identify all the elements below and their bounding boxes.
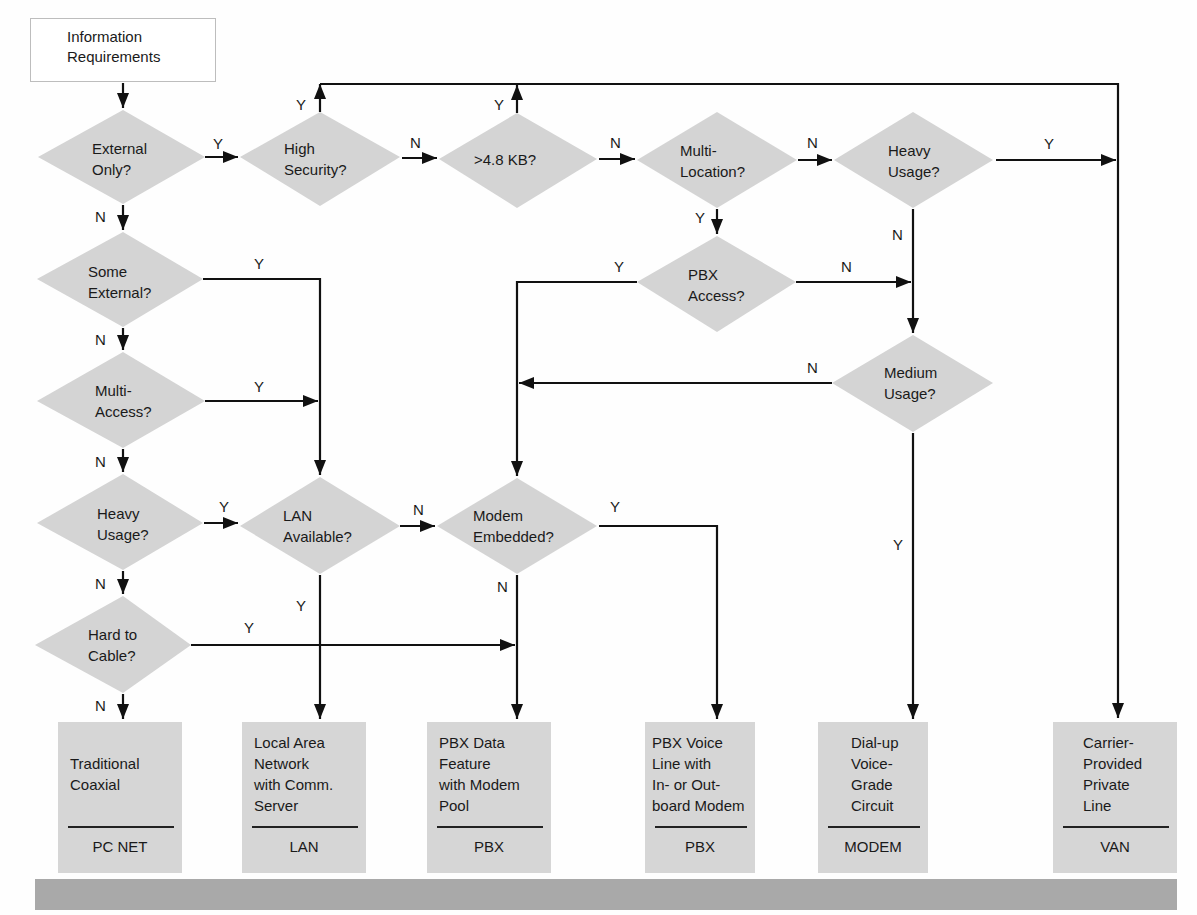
outcome-lan: Local Area Network with Comm. Server LAN [242,722,366,873]
outcome-divider [655,826,747,828]
edge-label-no: N [610,133,621,152]
outcome-description: Traditional Coaxial [70,732,139,795]
outcome-divider [828,826,920,828]
outcome-divider [437,826,543,828]
decision-multi-location: Multi- Location? [680,140,745,182]
decision-medium-usage: Medium Usage? [884,362,937,404]
edge-label-no: N [95,574,106,593]
decision-pbx-access: PBX Access? [688,264,745,306]
outcome-code: VAN [1053,838,1177,855]
decision-external-only: External Only? [92,138,147,180]
edge-label-no: N [497,577,508,596]
outcome-van: Carrier- Provided Private Line VAN [1053,722,1177,873]
edge-label-no: N [892,225,903,244]
outcome-pc-net: Traditional Coaxial PC NET [58,722,182,873]
edge-label-yes: Y [244,618,254,637]
edge-label-yes: Y [610,497,620,516]
outcome-description: Dial-up Voice- Grade Circuit [851,732,899,816]
decision-high-security: High Security? [284,138,347,180]
start-box-information-requirements: Information Requirements [30,18,216,82]
edge-label-no: N [807,133,818,152]
decision-heavy-usage-top: Heavy Usage? [888,140,940,182]
outcome-modem: Dial-up Voice- Grade Circuit MODEM [818,722,928,873]
decision-lan-available: LAN Available? [283,505,352,547]
edge-label-yes: Y [494,95,504,114]
edge-label-yes: Y [893,535,903,554]
edge-label-yes: Y [213,134,223,153]
edge-label-yes: Y [254,377,264,396]
decision-hard-to-cable: Hard to Cable? [88,624,137,666]
edge-label-yes: Y [296,95,306,114]
edge-label-no: N [95,696,106,715]
outcome-code: PBX [645,838,755,855]
edge-label-no: N [95,207,106,226]
edge-label-no: N [807,358,818,377]
edge-label-no: N [95,330,106,349]
outcome-divider [68,826,174,828]
edge-label-no: N [410,133,421,152]
edge-label-yes: Y [219,497,229,516]
edge-label-yes: Y [1044,134,1054,153]
outcome-pbx-data: PBX Data Feature with Modem Pool PBX [427,722,551,873]
edge-label-no: N [95,452,106,471]
edge-label-no: N [413,500,424,519]
decision-multi-access: Multi- Access? [95,380,152,422]
outcome-description: Carrier- Provided Private Line [1083,732,1142,816]
edge-label-yes: Y [296,596,306,615]
outcome-code: MODEM [818,838,928,855]
outcome-description: PBX Data Feature with Modem Pool [439,732,520,816]
decision-some-external: Some External? [88,261,151,303]
outcome-pbx-voice: PBX Voice Line with In- or Out- board Mo… [645,722,755,873]
decision-heavy-usage-left: Heavy Usage? [97,503,149,545]
edge-label-yes: Y [614,257,624,276]
outcome-code: PBX [427,838,551,855]
outcome-divider [252,826,358,828]
decision-gt-4-8kb: >4.8 KB? [474,149,536,170]
outcome-description: Local Area Network with Comm. Server [254,732,333,816]
decision-modem-embedded: Modem Embedded? [473,505,554,547]
outcome-divider [1063,826,1169,828]
decision-shapes [35,110,993,693]
footer-bar [35,879,1177,910]
edge-label-yes: Y [254,254,264,273]
outcome-description: PBX Voice Line with In- or Out- board Mo… [652,732,745,816]
outcome-code: LAN [242,838,366,855]
edge-label-no: N [841,257,852,276]
edge-label-yes: Y [695,208,705,227]
outcome-code: PC NET [58,838,182,855]
